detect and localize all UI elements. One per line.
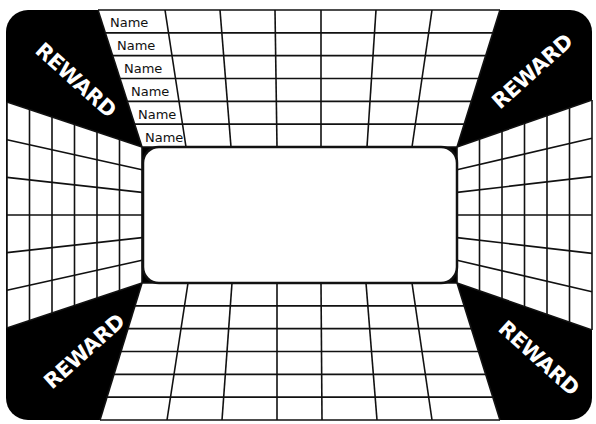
reward-chart-board: Name Name Name Name Name Name REWARD REW… — [0, 0, 596, 424]
top-grid-panel — [98, 10, 500, 147]
center-box[interactable] — [143, 147, 457, 283]
name-label-3[interactable]: Name — [124, 61, 162, 76]
name-label-6[interactable]: Name — [145, 130, 183, 145]
bottom-grid-panel — [100, 283, 500, 420]
name-label-5[interactable]: Name — [138, 107, 176, 122]
name-label-4[interactable]: Name — [131, 84, 169, 99]
name-label-1[interactable]: Name — [110, 15, 148, 30]
name-label-2[interactable]: Name — [117, 38, 155, 53]
grid-line — [321, 283, 322, 420]
